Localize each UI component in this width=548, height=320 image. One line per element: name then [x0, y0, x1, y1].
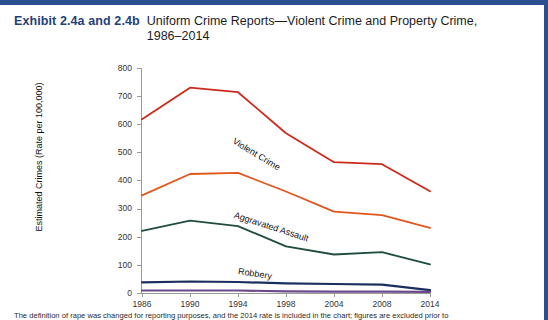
x-tick-mark [286, 293, 287, 297]
series-lines-group [0, 52, 548, 320]
x-tick-mark [190, 293, 191, 297]
exhibit-header: Exhibit 2.4a and 2.4bUniform Crime Repor… [14, 14, 532, 44]
exhibit-page: Exhibit 2.4a and 2.4bUniform Crime Repor… [0, 0, 548, 320]
x-tick-label: 2008 [362, 299, 402, 309]
x-tick-mark [430, 293, 431, 297]
x-tick-label: 1998 [266, 299, 306, 309]
x-tick-mark [334, 293, 335, 297]
series-line-aggravated-assault [142, 173, 430, 228]
x-tick-label: 2014 [410, 299, 450, 309]
exhibit-number-label: Exhibit 2.4a and 2.4b [14, 14, 140, 28]
series-line-murder [142, 291, 430, 292]
x-tick-mark [238, 293, 239, 297]
exhibit-footnote: The definition of rape was changed for r… [14, 311, 528, 320]
x-tick-mark [382, 293, 383, 297]
x-tick-label: 2004 [314, 299, 354, 309]
exhibit-title: Uniform Crime Reports—Violent Crime and … [147, 14, 503, 44]
x-tick-label: 1994 [218, 299, 258, 309]
x-tick-mark [142, 293, 143, 297]
series-line-rape [142, 282, 430, 291]
top-border-bar [0, 0, 548, 5]
crime-rate-line-chart: Estimated Crimes (Rate per 100,000) 800 … [0, 52, 548, 320]
x-tick-label: 1990 [170, 299, 210, 309]
x-tick-label: 1986 [122, 299, 162, 309]
